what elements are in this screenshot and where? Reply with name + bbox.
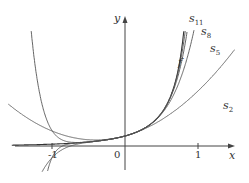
x-axis-label: x <box>229 150 235 161</box>
s5-label: s5 <box>210 43 220 57</box>
y-axis-label: y <box>114 13 120 24</box>
curve-f <box>12 31 184 145</box>
s5-label-sub: 5 <box>216 49 220 57</box>
s8-label: s8 <box>201 26 211 40</box>
tick-label-neg1: -1 <box>48 150 58 160</box>
s8-label-sub: 8 <box>207 32 211 40</box>
origin-label: 0 <box>114 150 120 160</box>
s11-label-sub: 11 <box>195 19 204 27</box>
curve-s_8 <box>31 31 187 142</box>
s11-label: s11 <box>189 13 204 27</box>
s2-label-sub: 2 <box>229 106 233 114</box>
f-label: f <box>178 57 182 68</box>
curve-s_2 <box>8 50 234 140</box>
chart-canvas <box>0 0 249 183</box>
x-axis-arrow-icon <box>228 144 235 149</box>
y-axis-arrow-icon <box>123 16 128 23</box>
s2-label: s2 <box>223 100 233 114</box>
tick-label-1: 1 <box>195 150 201 160</box>
